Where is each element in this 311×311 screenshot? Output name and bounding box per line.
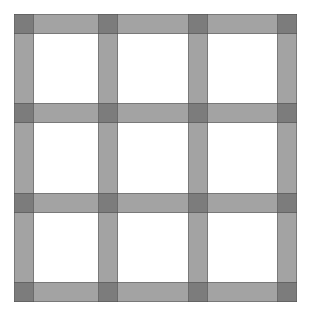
horizontal-band-3 (14, 193, 297, 213)
vertical-band-3 (188, 14, 208, 302)
horizontal-band-1 (14, 14, 297, 34)
horizontal-band-2 (14, 103, 297, 123)
lattice-figure (0, 0, 311, 311)
vertical-band-1 (14, 14, 34, 302)
vertical-band-4 (277, 14, 297, 302)
vertical-band-2 (98, 14, 118, 302)
horizontal-band-4 (14, 282, 297, 302)
